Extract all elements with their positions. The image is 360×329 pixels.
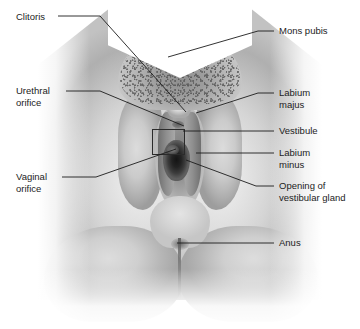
vestibule-highlight-box xyxy=(152,129,185,155)
label-mons-pubis: Mons pubis xyxy=(279,25,357,37)
label-labium-majus: Labium majus xyxy=(279,87,353,110)
edge-fade-bottom xyxy=(0,269,360,329)
label-clitoris: Clitoris xyxy=(16,11,62,23)
label-labium-minus: Labium minus xyxy=(279,147,353,170)
label-vestibule: Vestibule xyxy=(279,125,353,137)
anatomical-figure: Clitoris Urethral orifice Vaginal orific… xyxy=(0,0,360,329)
label-vaginal-orifice: Vaginal orifice xyxy=(16,171,70,194)
label-opening-vestibular-gland: Opening of vestibular gland xyxy=(279,180,359,203)
label-anus: Anus xyxy=(279,237,353,249)
urethral-orifice-region xyxy=(172,121,184,128)
label-urethral-orifice: Urethral orifice xyxy=(16,85,70,108)
